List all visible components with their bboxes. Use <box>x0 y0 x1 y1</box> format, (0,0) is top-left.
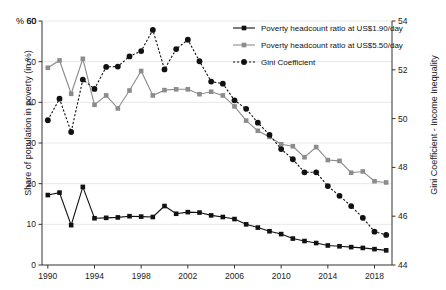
svg-text:2014: 2014 <box>318 271 337 281</box>
data-point <box>103 64 109 70</box>
data-point <box>255 120 261 126</box>
legend-label: Gini Coefficient <box>261 58 316 67</box>
data-point <box>232 97 238 103</box>
data-point <box>174 87 179 92</box>
data-point <box>349 170 354 175</box>
data-point <box>174 211 179 216</box>
data-point <box>360 215 366 221</box>
data-point <box>361 169 366 174</box>
data-point <box>279 232 284 237</box>
data-point <box>139 69 144 74</box>
data-point <box>383 232 389 238</box>
y-axis-left-ticks: 0102030405060 <box>27 16 42 270</box>
data-point <box>197 92 202 97</box>
legend-marker <box>241 59 247 65</box>
data-point <box>138 48 144 54</box>
data-point <box>209 213 214 218</box>
data-point <box>361 246 366 251</box>
svg-text:2002: 2002 <box>178 271 197 281</box>
data-point <box>127 214 132 219</box>
data-point <box>162 66 168 72</box>
legend-label: Poverty headcount ratio at US$1.90/day <box>261 24 403 33</box>
data-point <box>127 53 133 59</box>
data-point <box>104 93 109 98</box>
data-point <box>326 158 331 163</box>
x-axis-ticks: 19901994199820022006201020142018 <box>38 265 384 281</box>
svg-text:50: 50 <box>27 57 37 67</box>
data-point <box>92 102 97 107</box>
legend-label: Poverty headcount ratio at US$5.50/day <box>261 41 403 50</box>
data-point <box>291 144 296 149</box>
data-point <box>326 243 331 248</box>
svg-text:44: 44 <box>398 260 408 270</box>
data-point <box>290 156 296 162</box>
data-point <box>302 155 307 160</box>
data-point <box>337 193 343 199</box>
data-point <box>116 215 121 220</box>
data-point <box>372 247 377 252</box>
data-point <box>314 241 319 246</box>
data-point <box>116 106 121 111</box>
svg-text:10: 10 <box>27 219 37 229</box>
data-point <box>302 239 307 244</box>
data-point <box>313 169 319 175</box>
series-line-2 <box>48 30 386 235</box>
data-point <box>127 88 132 93</box>
data-point <box>302 169 308 175</box>
data-point <box>243 106 249 112</box>
data-point <box>279 142 284 147</box>
data-point <box>162 204 167 209</box>
data-point <box>173 46 179 52</box>
data-point <box>372 229 378 235</box>
data-point <box>221 93 226 98</box>
data-point <box>68 129 74 135</box>
data-point <box>150 27 156 33</box>
legend-marker <box>242 43 247 48</box>
data-point <box>151 215 156 220</box>
data-point <box>139 214 144 219</box>
data-point <box>232 104 237 109</box>
svg-text:52: 52 <box>398 65 408 75</box>
data-point <box>151 93 156 98</box>
data-point <box>92 216 97 221</box>
data-point <box>337 244 342 249</box>
data-point <box>69 223 74 228</box>
data-point <box>232 217 237 222</box>
svg-text:50: 50 <box>398 114 408 124</box>
data-point <box>69 91 74 96</box>
data-point <box>104 216 109 221</box>
data-point <box>46 193 51 198</box>
data-point <box>197 58 203 64</box>
svg-text:48: 48 <box>398 162 408 172</box>
data-point <box>325 183 331 189</box>
data-point <box>384 180 389 185</box>
series-line-0 <box>48 187 386 250</box>
data-point <box>220 81 226 87</box>
svg-text:2010: 2010 <box>272 271 291 281</box>
svg-text:1990: 1990 <box>38 271 57 281</box>
data-point <box>186 87 191 92</box>
svg-text:60: 60 <box>27 16 37 26</box>
data-point <box>57 96 63 102</box>
data-series-group <box>45 27 389 253</box>
data-point <box>244 222 249 227</box>
data-point <box>267 132 273 138</box>
data-point <box>278 146 284 152</box>
data-point <box>185 37 191 43</box>
data-point <box>81 185 86 190</box>
data-point <box>337 159 342 164</box>
series-line-1 <box>48 59 386 183</box>
data-point <box>81 57 86 62</box>
svg-text:20: 20 <box>27 179 37 189</box>
svg-text:30: 30 <box>27 138 37 148</box>
data-point <box>244 118 249 123</box>
data-point <box>209 89 214 94</box>
svg-text:1994: 1994 <box>85 271 104 281</box>
chart-plot-area: 0102030405060 444648505254 1990199419982… <box>0 0 446 290</box>
data-point <box>256 129 261 134</box>
svg-text:40: 40 <box>27 97 37 107</box>
svg-text:0: 0 <box>31 260 36 270</box>
data-point <box>384 248 389 253</box>
data-point <box>57 58 62 63</box>
data-point <box>186 210 191 215</box>
